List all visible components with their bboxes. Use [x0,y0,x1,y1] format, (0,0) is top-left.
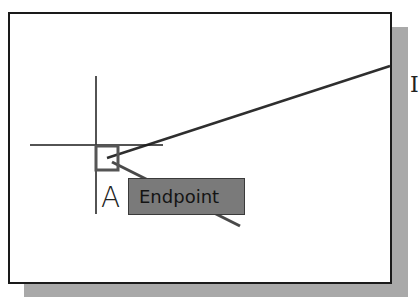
drawn-line [107,66,390,158]
osnap-endpoint-tooltip: Endpoint [128,178,245,215]
drawing-canvas[interactable] [0,0,420,297]
cropped-edge-text: I [410,72,419,97]
point-label-a: A [101,182,120,214]
